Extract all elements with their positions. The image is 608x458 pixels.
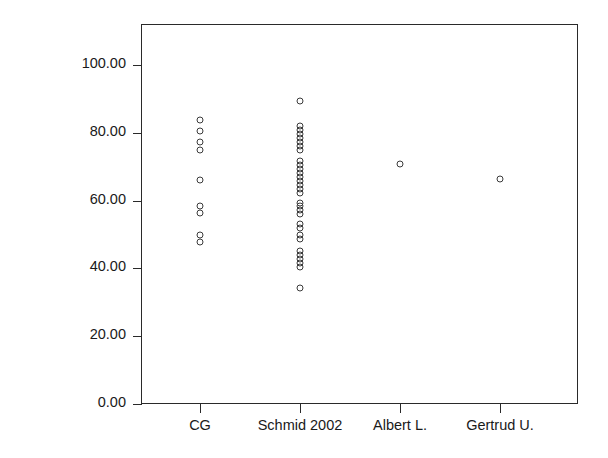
data-point: [197, 138, 204, 145]
y-axis-tick-label: 40.00: [48, 258, 126, 274]
y-axis-tick-label: 20.00: [48, 326, 126, 342]
data-point: [197, 210, 204, 217]
data-point: [297, 147, 304, 154]
y-axis-tick-label: 100.00: [48, 55, 126, 71]
data-point: [297, 97, 304, 104]
data-point: [497, 175, 504, 182]
x-axis-tick-mark: [500, 404, 501, 413]
data-point: [197, 238, 204, 245]
y-axis-title: Percentage of simple past tense forms: [0, 0, 44, 58]
y-axis-tick-labels: 0.0020.0040.0060.0080.00100.00: [48, 0, 126, 458]
x-axis-tick-mark: [200, 404, 201, 413]
y-axis-tick-label: 80.00: [48, 123, 126, 139]
y-axis-tick-label: 0.00: [48, 394, 126, 410]
plot-area: [141, 24, 578, 404]
x-axis-tick-mark: [300, 404, 301, 413]
data-point: [397, 160, 404, 167]
data-point: [297, 235, 304, 242]
x-axis-category-label: Albert L.: [373, 417, 427, 433]
y-axis-tick-label: 60.00: [48, 191, 126, 207]
x-axis-category-label: CG: [189, 417, 211, 433]
data-point: [197, 203, 204, 210]
x-axis-category-label: Gertrud U.: [466, 417, 534, 433]
data-point: [297, 285, 304, 292]
data-point: [197, 116, 204, 123]
data-point: [197, 147, 204, 154]
x-axis-category-label: Schmid 2002: [258, 417, 343, 433]
x-axis-tick-mark: [400, 404, 401, 413]
data-point: [297, 190, 304, 197]
data-point: [197, 231, 204, 238]
data-point: [197, 128, 204, 135]
dot-plot-figure: Percentage of simple past tense forms 0.…: [0, 0, 608, 458]
data-point: [297, 264, 304, 271]
y-axis-tick-mark: [133, 404, 142, 405]
data-point: [197, 176, 204, 183]
data-point: [297, 211, 304, 218]
